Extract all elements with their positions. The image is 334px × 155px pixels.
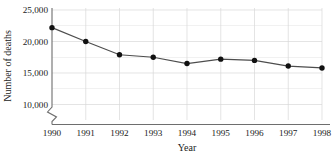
y-axis-title: Number of deaths	[2, 30, 13, 102]
y-tick-label: 15,000	[23, 68, 49, 78]
y-tick-label: 25,000	[23, 5, 49, 15]
x-tick-label: 1995	[212, 128, 231, 138]
x-tick-label: 1996	[245, 128, 264, 138]
data-point	[252, 58, 257, 63]
data-point	[218, 56, 223, 61]
line-chart: 25,000 20,000 15,000 10,000 1990 1991 19…	[0, 0, 334, 155]
data-point	[151, 55, 156, 60]
y-tick-labels: 25,000 20,000 15,000 10,000	[23, 5, 49, 110]
y-tick-label: 10,000	[23, 100, 49, 110]
x-tick-label: 1993	[144, 128, 163, 138]
data-point	[49, 25, 54, 30]
x-tick-label: 1990	[43, 128, 62, 138]
x-tick-label: 1992	[110, 128, 129, 138]
x-tick-labels: 1990 1991 1992 1993 1994 1995 1996 1997 …	[43, 128, 332, 138]
data-point	[83, 39, 88, 44]
data-point	[184, 61, 189, 66]
x-tick-label: 1997	[279, 128, 298, 138]
x-tick-label: 1998	[313, 128, 332, 138]
data-point	[286, 63, 291, 68]
x-tick-label: 1994	[178, 128, 197, 138]
chart-container: 25,000 20,000 15,000 10,000 1990 1991 19…	[0, 0, 334, 155]
x-axis-title: Year	[178, 142, 197, 153]
data-point	[117, 52, 122, 57]
data-point	[319, 65, 324, 70]
x-tick-label: 1991	[77, 128, 96, 138]
y-tick-label: 20,000	[23, 37, 49, 47]
